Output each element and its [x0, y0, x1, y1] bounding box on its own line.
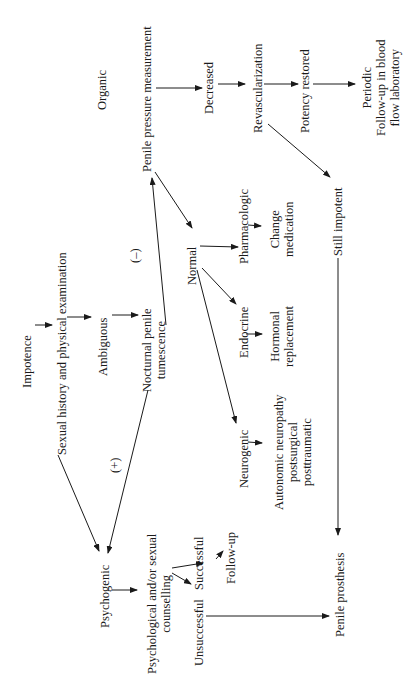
node-impotence: Impotence: [20, 335, 34, 388]
node-change-medication: Changemedication: [268, 201, 296, 257]
node-counselling: Psychological and/or sexualcounselling: [145, 534, 173, 674]
node-penile-pressure: Penile pressure measurement: [140, 26, 154, 172]
node-successful: Successful: [192, 537, 206, 590]
node-autonomic-neuropathy: Autonomic neuropathypostsurgicalposttrau…: [272, 394, 314, 510]
label-plus: (+): [108, 458, 122, 473]
node-normal: Normal: [185, 247, 199, 285]
impotence-flowchart: Impotence Sexual history and physical ex…: [0, 0, 409, 699]
node-follow-up: Follow-up: [224, 532, 238, 584]
node-history: Sexual history and physical examination: [55, 252, 69, 455]
node-npt: Nocturnal peniletumescence: [140, 308, 168, 392]
node-ambiguous: Ambiguous: [96, 318, 110, 376]
node-potency-restored: Potency restored: [298, 49, 312, 133]
node-periodic-followup: PeriodicFollow-up in bloodflow laborator…: [360, 39, 402, 136]
node-endocrine: Endocrine: [237, 307, 251, 358]
node-hormonal-replacement: Hormonalreplacement: [268, 306, 296, 367]
node-penile-prosthesis: Penile prosthesis: [333, 553, 347, 637]
node-pharmacologic: Pharmacologic: [237, 189, 251, 264]
node-organic: Organic: [95, 70, 109, 110]
node-neurogenic: Neurogenic: [237, 430, 251, 488]
node-unsuccessful: Unsuccessful: [192, 599, 206, 666]
label-minus: (–): [128, 248, 142, 263]
node-psychogenic: Psychogenic: [98, 565, 112, 628]
node-still-impotent: Still impotent: [331, 188, 345, 256]
node-revascularization: Revascularization: [251, 43, 265, 133]
node-decreased: Decreased: [202, 62, 216, 114]
